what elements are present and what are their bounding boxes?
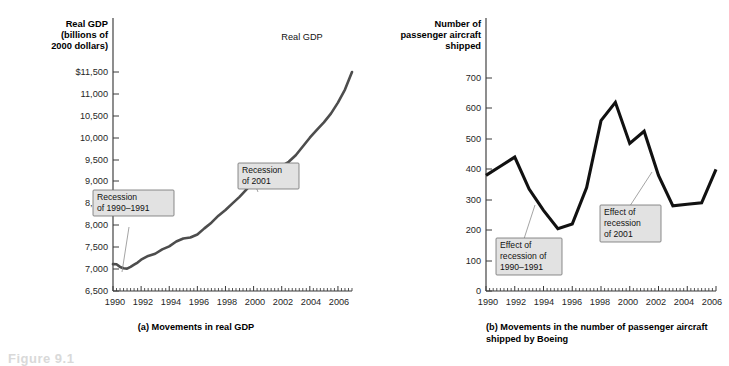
panel-b-xticklabel-2000: 2000 xyxy=(618,297,638,307)
panel-a-yticklabel-6500: 6,500 xyxy=(85,286,108,296)
panel-a-real-gdp: Real GDP (billions of 2000 dollars) xyxy=(0,0,366,362)
panel-b-yticklabel-500: 500 xyxy=(466,134,481,144)
panel-b-yticklabel-100: 100 xyxy=(466,256,481,266)
panel-a-xticklabel-1998: 1998 xyxy=(217,297,237,307)
panel-a-xticklabel-2002: 2002 xyxy=(273,297,293,307)
panel-b-svg: Number of passenger aircraft shipped 700… xyxy=(364,0,729,362)
panel-b-callout1-line2: recession of xyxy=(500,251,547,261)
panel-a-yticklabel-11500: $11,500 xyxy=(75,67,108,77)
panel-a-xticklabel-1990: 1990 xyxy=(105,297,125,307)
panel-a-xticklabel-2004: 2004 xyxy=(301,297,321,307)
panel-b-y-ticklabels: 700 600 500 400 300 200 100 0 xyxy=(466,73,481,296)
panel-b-xticklabel-1992: 1992 xyxy=(506,297,526,307)
panel-b-callout-effect-1990-1991: Effect of recession of 1990–1991 xyxy=(496,238,562,275)
panel-a-callout2-line2: of 2001 xyxy=(242,176,271,186)
panel-a-axis-title-line3: 2000 dollars) xyxy=(51,41,108,51)
panel-a-yticklabel-7500: 7,500 xyxy=(85,242,108,252)
panel-a-callout1-line1: Recession xyxy=(97,192,137,202)
panel-a-series-label: Real GDP xyxy=(281,32,322,42)
panel-b-yticklabel-600: 600 xyxy=(466,103,481,113)
panel-b-xticklabel-2002: 2002 xyxy=(646,297,666,307)
panel-a-xticklabel-1994: 1994 xyxy=(161,297,181,307)
figure-number-label: Figure 9.1 xyxy=(8,351,74,366)
panel-a-xticklabel-2000: 2000 xyxy=(245,297,265,307)
panel-a-x-ticklabels: 1990 1992 1994 1996 1998 2000 2002 2004 … xyxy=(105,297,349,307)
panel-a-xticklabel-1992: 1992 xyxy=(133,297,153,307)
panel-a-yticklabel-8000: 8,000 xyxy=(85,220,108,230)
panel-a-y-ticks xyxy=(113,72,119,291)
panel-b-caption-line1: (b) Movements in the number of passenger… xyxy=(486,322,708,332)
panel-a-axis-title-line2: (billions of xyxy=(61,30,109,40)
panel-a-xticklabel-2006: 2006 xyxy=(329,297,349,307)
panel-a-callout1-line2: of 1990–1991 xyxy=(97,203,150,213)
panel-b-callout2-line2: recession xyxy=(604,218,641,228)
panel-a-axis-title-line1: Real GDP xyxy=(66,19,108,29)
panel-b-xticklabel-1996: 1996 xyxy=(562,297,582,307)
panel-b-yticklabel-300: 300 xyxy=(466,195,481,205)
panel-a-callout-recession-2001: Recession of 2001 xyxy=(238,163,299,189)
panel-a-caption: (a) Movements in real GDP xyxy=(138,322,254,332)
panel-b-yticklabel-400: 400 xyxy=(466,164,481,174)
panel-a-data-line xyxy=(113,72,352,269)
panel-a-xticklabel-1996: 1996 xyxy=(189,297,209,307)
panel-b-yticklabel-700: 700 xyxy=(466,73,481,83)
panel-b-y-ticks xyxy=(486,78,492,291)
panel-b-callout2-line1: Effect of xyxy=(604,207,636,217)
panel-b-boeing-shipments: Number of passenger aircraft shipped 700… xyxy=(364,0,729,362)
panel-b-caption-line2: shipped by Boeing xyxy=(486,334,568,344)
panel-a-yticklabel-7000: 7,000 xyxy=(85,264,108,274)
panel-b-yticklabel-0: 0 xyxy=(476,286,481,296)
panel-b-callout1-line1: Effect of xyxy=(500,240,532,250)
panel-b-xticklabel-1994: 1994 xyxy=(534,297,554,307)
panel-b-x-ticks xyxy=(486,286,716,291)
panel-b-x-ticklabels: 1990 1992 1994 1996 1998 2000 2002 2004 … xyxy=(478,297,722,307)
panel-b-callout2-line3: of 2001 xyxy=(604,229,633,239)
panel-a-callout-recession-1990-1991: Recession of 1990–1991 xyxy=(93,190,174,216)
panel-b-axis-title-line3: shipped xyxy=(445,41,481,51)
panel-a-yticklabel-11000: 11,000 xyxy=(81,89,108,99)
panel-a-yticklabel-10500: 10,500 xyxy=(80,111,108,121)
panel-a-y-ticklabels: $11,500 11,000 10,500 10,000 9,500 9,000… xyxy=(75,67,108,296)
panel-b-xticklabel-2006: 2006 xyxy=(702,297,722,307)
panel-b-axis-title-line2: passenger aircraft xyxy=(400,30,481,40)
panel-b-callout1-line3: 1990–1991 xyxy=(500,262,543,272)
panel-a-leader-1990 xyxy=(122,227,129,272)
panel-a-svg: Real GDP (billions of 2000 dollars) xyxy=(0,0,366,362)
panel-b-xticklabel-2004: 2004 xyxy=(674,297,694,307)
panel-a-yticklabel-10000: 10,000 xyxy=(80,133,108,143)
panel-a-callout2-line1: Recession xyxy=(242,165,282,175)
panel-a-yticklabel-9500: 9,500 xyxy=(85,155,108,165)
panel-a-x-ticks xyxy=(113,286,352,291)
panel-b-yticklabel-200: 200 xyxy=(466,225,481,235)
panel-b-axis-title-line1: Number of xyxy=(435,19,482,29)
panel-b-callout-effect-2001: Effect of recession of 2001 xyxy=(600,205,661,242)
panel-a-yticklabel-9000: 9,000 xyxy=(85,176,108,186)
panel-b-xticklabel-1998: 1998 xyxy=(590,297,610,307)
panel-b-xticklabel-1990: 1990 xyxy=(478,297,498,307)
